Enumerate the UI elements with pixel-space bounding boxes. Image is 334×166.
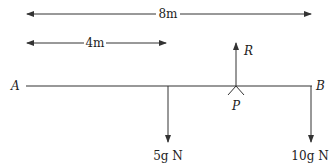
beam-end-a-label: A	[10, 79, 20, 93]
load-5g-label: 5g N	[153, 149, 183, 163]
dimension-8m: 8m	[27, 7, 311, 21]
pivot: P	[228, 86, 244, 113]
load-10g-label: 10g N	[291, 149, 328, 163]
pivot-icon	[228, 86, 244, 95]
reaction-force: R	[236, 43, 253, 86]
reaction-label: R	[243, 44, 253, 58]
dimension-8m-label: 8m	[158, 7, 178, 21]
load-5g: 5g N	[153, 86, 183, 163]
moments-diagram: 8m 4m R A B P 5g N 10g N	[0, 0, 334, 166]
load-10g: 10g N	[291, 86, 328, 163]
pivot-label: P	[231, 99, 241, 113]
dimension-4m-label: 4m	[85, 36, 105, 50]
dimension-4m: 4m	[27, 36, 166, 50]
beam-end-b-label: B	[315, 79, 325, 93]
